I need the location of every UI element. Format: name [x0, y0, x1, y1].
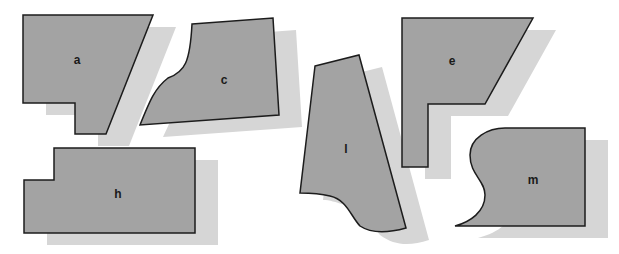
piece-h[interactable]: h	[24, 148, 195, 233]
piece-h-label: h	[114, 187, 121, 201]
piece-c-label: c	[221, 73, 228, 87]
piece-m-shape[interactable]	[455, 128, 585, 226]
piece-e-label: e	[449, 54, 456, 68]
puzzle-pieces-diagram: a c l e h m	[0, 0, 619, 254]
piece-h-shape[interactable]	[24, 148, 195, 233]
piece-m-label: m	[528, 173, 539, 187]
piece-l-label: l	[344, 142, 347, 156]
pieces: a c l e h m	[23, 15, 585, 233]
piece-a-label: a	[74, 53, 81, 67]
piece-m[interactable]: m	[455, 128, 585, 226]
